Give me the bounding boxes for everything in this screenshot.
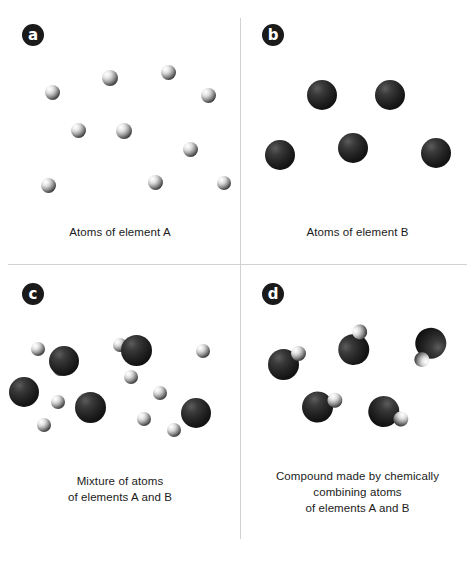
atom-element-a: [153, 386, 167, 400]
atom-element-a: [201, 88, 216, 103]
figure-atoms-and-compounds: a Atoms of element A b Atoms of element …: [0, 0, 475, 561]
atom-element-a: [37, 418, 51, 432]
atom-element-a: [137, 412, 151, 426]
caption-line: Compound made by chemically: [240, 468, 475, 484]
atom-element-a: [148, 175, 163, 190]
atom-element-a: [161, 65, 176, 80]
panel-caption-c: Mixture of atoms of elements A and B: [0, 473, 240, 505]
atom-element-a: [196, 344, 210, 358]
molecule-stage-d: [240, 265, 475, 561]
caption-line: of elements A and B: [240, 500, 475, 516]
atom-element-a: [124, 370, 138, 384]
panel-a: a Atoms of element A: [0, 0, 240, 264]
atom-element-a: [291, 346, 306, 361]
atom-stage-c: [0, 265, 240, 561]
atom-element-b: [375, 80, 405, 110]
caption-line: Mixture of atoms: [0, 473, 240, 489]
atom-element-a: [51, 395, 65, 409]
atom-element-a: [31, 342, 45, 356]
molecule-ab: [327, 316, 389, 377]
atom-element-b: [338, 133, 368, 163]
atom-element-b: [181, 398, 211, 428]
panel-caption-a: Atoms of element A: [0, 224, 240, 240]
atom-element-b: [75, 392, 106, 423]
atom-element-a: [167, 423, 181, 437]
atom-element-a: [41, 178, 56, 193]
panel-c: c Mixture of atoms of elements A and B: [0, 265, 240, 561]
atom-element-b: [307, 80, 337, 110]
atom-element-b: [265, 140, 295, 170]
molecule-ab: [396, 317, 455, 375]
atom-element-b: [421, 138, 451, 168]
atom-element-b: [49, 346, 79, 376]
caption-line: combining atoms: [240, 484, 475, 500]
molecule-ab: [266, 343, 312, 385]
panel-caption-d: Compound made by chemically combining at…: [240, 468, 475, 516]
atom-element-a: [217, 176, 231, 190]
atom-element-a: [45, 85, 60, 100]
atom-element-a: [71, 123, 86, 138]
atom-element-a: [102, 70, 118, 86]
molecule-ab: [295, 382, 350, 434]
molecule-ab: [357, 386, 416, 447]
panel-b: b Atoms of element B: [240, 0, 475, 264]
panel-caption-b: Atoms of element B: [240, 224, 475, 240]
atom-element-a: [183, 142, 198, 157]
caption-line: of elements A and B: [0, 489, 240, 505]
atom-element-b: [121, 335, 152, 366]
panel-d: d Compound made by chemically combining …: [240, 265, 475, 561]
atom-element-b: [9, 377, 39, 407]
atom-element-a: [116, 123, 132, 139]
